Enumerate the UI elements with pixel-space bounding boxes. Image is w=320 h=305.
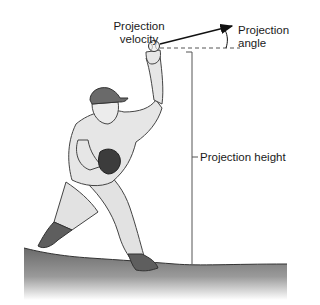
projection-height-label: Projection height	[200, 151, 286, 164]
projection-angle-arc	[225, 30, 227, 48]
glove	[98, 149, 120, 174]
throwing-arm	[146, 50, 163, 104]
projection-angle-label-line2: angle	[238, 37, 289, 50]
projection-angle-label-line1: Projection	[238, 24, 289, 37]
projection-velocity-label: Projection velocity	[102, 20, 176, 46]
back-leg	[38, 182, 98, 248]
projection-angle-label: Projection angle	[238, 24, 289, 50]
projection-velocity-label-line1: Projection	[102, 20, 176, 33]
projection-velocity-label-line2: velocity	[102, 33, 176, 46]
